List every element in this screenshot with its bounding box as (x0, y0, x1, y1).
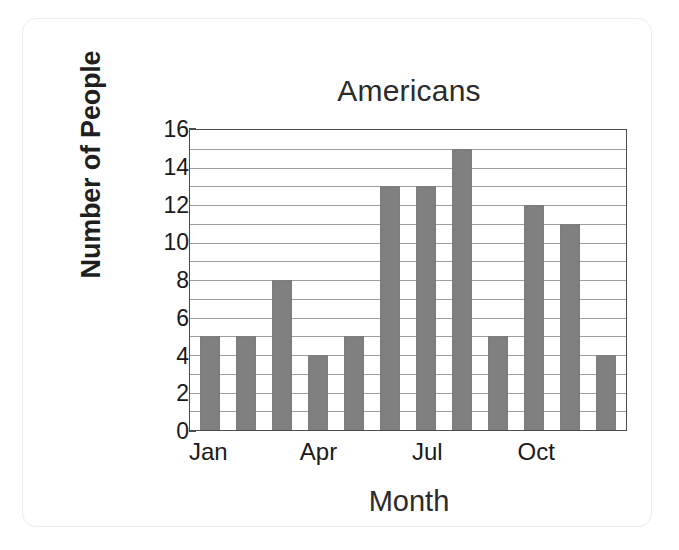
bar-slot (444, 130, 480, 430)
bar (344, 336, 364, 430)
bar-series (190, 130, 626, 430)
x-tick-label-empty (373, 437, 409, 477)
y-tick-label: 2 (145, 382, 189, 405)
bar (524, 205, 544, 430)
bar-slot (336, 130, 372, 430)
plot-area (189, 129, 627, 431)
x-tick-label-empty (337, 437, 373, 477)
bar-slot (588, 130, 624, 430)
x-tick-label-empty (555, 437, 591, 477)
x-tick-label: Jul (409, 437, 445, 477)
x-tick-label-empty (228, 437, 264, 477)
bar-slot (408, 130, 444, 430)
chart-title: Americans (189, 74, 629, 108)
bar (596, 355, 616, 430)
y-axis-ticks: 0246810121416 (133, 129, 189, 431)
chart-screenshot: Americans Number of People 0246810121416… (0, 0, 679, 550)
bar-slot (228, 130, 264, 430)
chart-card: Americans Number of People 0246810121416… (22, 18, 652, 527)
bar (560, 224, 580, 430)
y-tick-label: 16 (145, 118, 189, 141)
x-tick-label: Jan (189, 437, 228, 477)
y-tick-label: 14 (145, 155, 189, 178)
bar (488, 336, 508, 430)
x-tick-label-empty (445, 437, 481, 477)
bar (272, 280, 292, 430)
y-tick-label: 12 (145, 193, 189, 216)
y-tick-label: 6 (145, 306, 189, 329)
x-tick-label-empty (591, 437, 627, 477)
y-tick-label: 10 (145, 231, 189, 254)
x-tick-label-empty (481, 437, 517, 477)
x-axis-ticks: JanAprJulOct (189, 437, 627, 477)
x-axis-title: Month (189, 485, 629, 518)
bar-slot (192, 130, 228, 430)
bar-slot (516, 130, 552, 430)
x-tick-label: Apr (300, 437, 337, 477)
bar-slot (300, 130, 336, 430)
bar (416, 186, 436, 430)
y-axis-title: Number of People (76, 35, 107, 295)
bar-slot (372, 130, 408, 430)
y-tick-label: 8 (145, 269, 189, 292)
bar-slot (480, 130, 516, 430)
bar (452, 149, 472, 430)
bar-slot (264, 130, 300, 430)
y-tick-label: 0 (145, 420, 189, 443)
bar (308, 355, 328, 430)
x-tick-label: Oct (518, 437, 555, 477)
bar (380, 186, 400, 430)
bar (200, 336, 220, 430)
y-tick-label: 4 (145, 344, 189, 367)
x-tick-label-empty (264, 437, 300, 477)
bar-slot (552, 130, 588, 430)
bar (236, 336, 256, 430)
